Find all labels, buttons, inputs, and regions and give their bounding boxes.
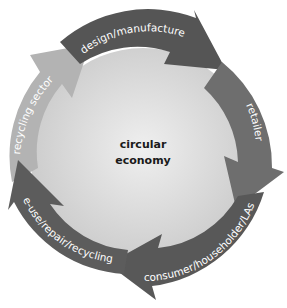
center-title-line1: circular (120, 138, 167, 151)
circular-economy-diagram: design/manufacture retailer consumer/hou… (0, 0, 287, 308)
center-title-line2: economy (115, 154, 171, 167)
